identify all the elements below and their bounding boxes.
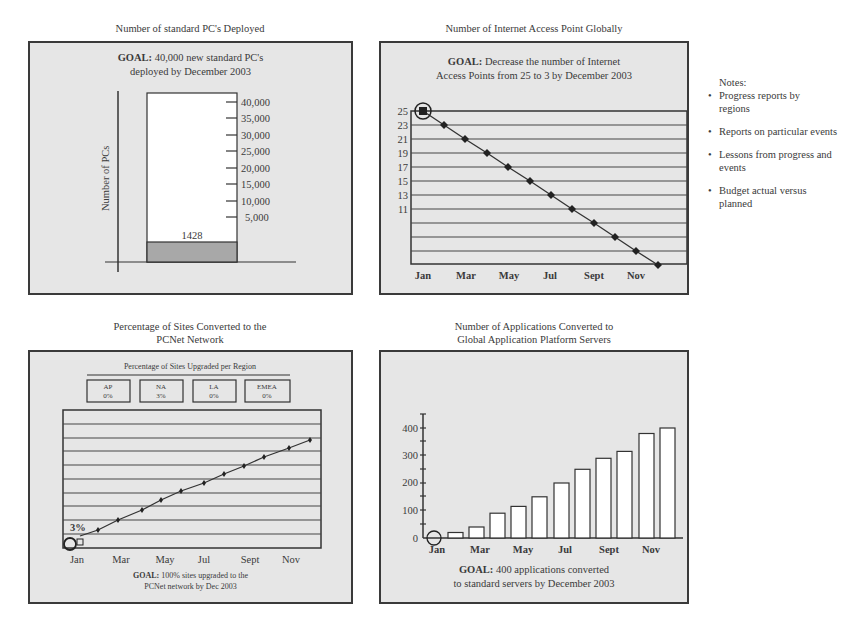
region-value: 0% xyxy=(262,392,272,400)
sites-current-label: 3% xyxy=(70,522,86,533)
svg-text:13: 13 xyxy=(398,190,409,201)
region-name: AP xyxy=(104,383,113,391)
svg-text:25: 25 xyxy=(398,106,409,117)
svg-text:15,000: 15,000 xyxy=(241,179,270,190)
svg-text:15: 15 xyxy=(398,176,409,187)
goal-text-sites: GOAL: 100% sites upgraded to the PCNet n… xyxy=(30,570,351,592)
apps-bars xyxy=(448,428,675,538)
svg-text:May: May xyxy=(499,270,520,281)
chart-frame-apps: 400 300 200 100 0 Jan Mar May Jul Sept xyxy=(379,350,689,604)
svg-text:Jan: Jan xyxy=(70,554,85,565)
svg-text:17: 17 xyxy=(398,162,409,173)
region-header: Percentage of Sites Upgraded per Region xyxy=(124,362,256,371)
svg-text:35,000: 35,000 xyxy=(241,113,270,124)
chart-title-iap: Number of Internet Access Point Globally xyxy=(379,22,689,35)
svg-text:300: 300 xyxy=(402,450,418,461)
svg-text:40,000: 40,000 xyxy=(241,97,270,108)
svg-text:Sept: Sept xyxy=(599,544,619,555)
notes-item: Reports on particular events xyxy=(708,125,847,138)
svg-text:Mar: Mar xyxy=(470,544,490,555)
region-value: 3% xyxy=(156,392,166,400)
notes-panel: Notes: Progress reports by regions Repor… xyxy=(708,76,848,210)
notes-item: Progress reports by regions xyxy=(708,89,807,115)
pcs-chart-svg: 40,000 35,000 30,000 25,000 20,000 15,00… xyxy=(30,43,351,293)
svg-text:Sept: Sept xyxy=(241,554,260,565)
svg-text:Jul: Jul xyxy=(543,270,557,281)
notes-heading: Notes: xyxy=(708,76,848,89)
svg-text:May: May xyxy=(155,554,175,565)
notes-item: Budget actual versus planned xyxy=(708,184,807,210)
notes-item: Lessons from progress and events xyxy=(708,148,852,174)
chart-frame-pcs: GOAL: 40,000 new standard PC's deployed … xyxy=(28,41,353,295)
pcs-value-label: 1428 xyxy=(182,230,203,241)
svg-text:Jul: Jul xyxy=(558,544,572,555)
svg-text:200: 200 xyxy=(402,477,418,488)
region-value: 0% xyxy=(103,392,113,400)
svg-text:5,000: 5,000 xyxy=(245,212,269,223)
chart-frame-iap: GOAL: Decrease the number of Internet Ac… xyxy=(379,41,689,295)
svg-text:20,000: 20,000 xyxy=(241,163,270,174)
iap-chart-svg: 25 23 21 19 17 15 13 11 Jan Mar xyxy=(381,43,687,293)
region-name: NA xyxy=(156,383,166,391)
sites-chart-svg: Percentage of Sites Upgraded per Region … xyxy=(30,352,351,602)
chart-title-pcs: Number of standard PC's Deployed xyxy=(28,22,352,35)
svg-text:Mar: Mar xyxy=(456,270,476,281)
svg-text:Jul: Jul xyxy=(198,554,210,565)
chart-frame-sites: Percentage of Sites Upgraded per Region … xyxy=(28,350,353,604)
pcs-progress-bar xyxy=(147,242,237,262)
svg-text:Jan: Jan xyxy=(415,270,432,281)
region-value: 0% xyxy=(209,392,219,400)
svg-text:19: 19 xyxy=(398,148,409,159)
svg-text:Nov: Nov xyxy=(642,544,661,555)
svg-text:23: 23 xyxy=(398,120,409,131)
svg-text:400: 400 xyxy=(402,423,418,434)
svg-text:Mar: Mar xyxy=(112,554,130,565)
pcs-ylabel: Number of PCs xyxy=(100,146,111,211)
chart-title-apps: Number of Applications Converted to Glob… xyxy=(379,320,689,346)
svg-text:10,000: 10,000 xyxy=(241,196,270,207)
notes-list: Progress reports by regions Reports on p… xyxy=(708,89,848,210)
svg-text:25,000: 25,000 xyxy=(241,146,270,157)
svg-text:Jan: Jan xyxy=(429,544,446,555)
goal-text-apps: GOAL: 400 applications converted to stan… xyxy=(381,563,687,591)
svg-text:Nov: Nov xyxy=(282,554,301,565)
svg-text:11: 11 xyxy=(398,204,408,215)
svg-text:Nov: Nov xyxy=(627,270,646,281)
svg-text:100: 100 xyxy=(402,505,418,516)
svg-text:0: 0 xyxy=(413,533,418,544)
svg-text:May: May xyxy=(513,544,534,555)
region-name: LA xyxy=(209,383,218,391)
svg-text:30,000: 30,000 xyxy=(241,130,270,141)
svg-text:Sept: Sept xyxy=(584,270,604,281)
svg-text:21: 21 xyxy=(398,134,409,145)
chart-title-sites: Percentage of Sites Converted to the PCN… xyxy=(28,320,352,346)
region-name: EMEA xyxy=(257,383,277,391)
